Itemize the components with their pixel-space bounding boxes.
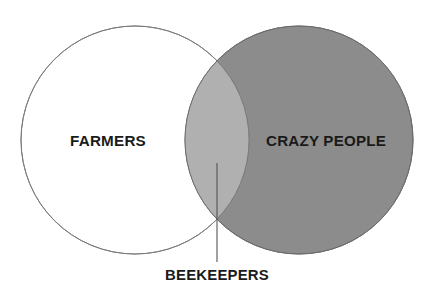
label-beekeepers: BEEKEEPERS	[165, 267, 269, 283]
venn-diagram: FARMERS CRAZY PEOPLE BEEKEEPERS	[0, 0, 433, 298]
label-crazy-people: CRAZY PEOPLE	[266, 133, 386, 149]
label-farmers: FARMERS	[70, 133, 146, 149]
